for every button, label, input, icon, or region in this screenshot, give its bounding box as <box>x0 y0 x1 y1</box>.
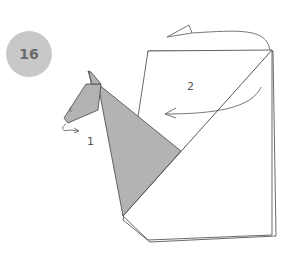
arrow3-icon <box>192 31 270 50</box>
origami-diagram <box>0 0 297 263</box>
horse-head <box>64 84 101 123</box>
arrow1-icon <box>63 124 78 131</box>
fold-label-1: 1 <box>87 135 94 148</box>
fold-label-2: 2 <box>187 80 194 93</box>
